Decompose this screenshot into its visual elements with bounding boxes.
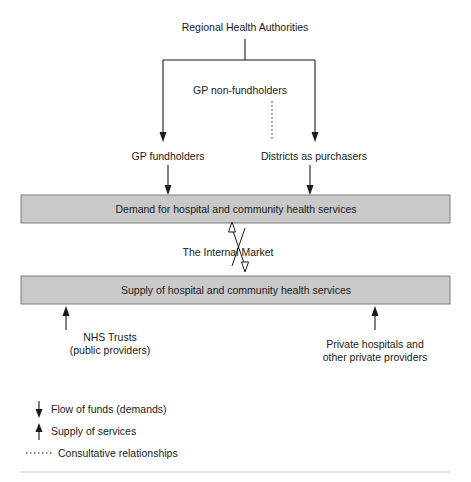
demand-band-label: Demand for hospital and community health… <box>115 203 356 216</box>
internal-market-label: The Internal Market <box>182 246 273 259</box>
legend-marker-supply-of-services <box>36 423 43 440</box>
provider-private-hospitals: Private hospitals and other private prov… <box>323 338 427 364</box>
node-gp-non-fundholders: GP non-fundholders <box>193 84 287 97</box>
node-regional-health-authorities: Regional Health Authorities <box>182 21 309 34</box>
provider-nhs-trusts: NHS Trusts (public providers) <box>70 331 151 357</box>
connector-nhstrusts-to-supply <box>63 306 70 330</box>
legend-label-flow-of-funds: Flow of funds (demands) <box>51 403 167 415</box>
legend-label-supply-of-services: Supply of services <box>51 425 136 437</box>
legend-label-consultative-relationships: Consultative relationships <box>58 447 178 459</box>
connector-private-to-supply <box>372 306 379 330</box>
legend-marker-flow-of-funds <box>36 401 43 418</box>
supply-band-label: Supply of hospital and community health … <box>121 284 351 297</box>
node-districts-as-purchasers: Districts as purchasers <box>261 150 367 163</box>
connector-districts-to-demand <box>307 165 314 195</box>
connector-gpfundholders-to-demand <box>165 165 172 195</box>
node-gp-fundholders: GP fundholders <box>132 150 205 163</box>
